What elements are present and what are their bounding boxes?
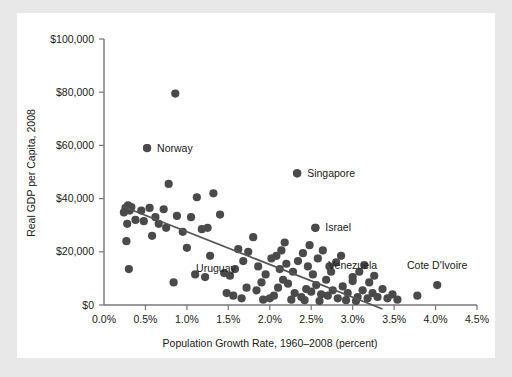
annotation-label: Israel [325,221,351,233]
annotation-label: Cote D'Ivoire [407,259,468,271]
x-tick-label: 4.5% [465,313,489,325]
data-point [171,89,179,97]
data-point [140,217,148,225]
data-point [170,278,178,286]
data-point [145,204,153,212]
y-axis-tick-marks [99,39,104,305]
data-point [305,241,313,249]
data-point [365,278,373,286]
data-point [342,296,350,304]
data-point [349,273,357,281]
annotation-marker [293,169,301,177]
data-point [413,292,421,300]
data-point [339,282,347,290]
data-point [183,244,191,252]
data-point [209,189,217,197]
data-point [120,208,128,216]
x-tick-label: 4.0% [424,313,448,325]
data-point [165,180,173,188]
data-point [237,294,245,302]
data-point [257,278,265,286]
data-point [314,254,322,262]
x-tick-label: 3.5% [382,313,406,325]
x-tick-label: 3.0% [341,313,365,325]
annotation-label: Uruguay [196,262,236,274]
data-point [239,257,247,265]
annotation-label: Venezuela [328,259,377,271]
x-tick-label: 2.0% [258,313,282,325]
data-point [201,273,209,281]
data-point [433,281,441,289]
data-point [378,285,386,293]
data-point [229,292,237,300]
data-point [373,293,381,301]
y-axis-tick-labels: $0$20,000$40,000$60,000$80,000$100,000 [50,33,94,311]
y-tick-label: $40,000 [56,192,94,204]
data-point [281,238,289,246]
data-point [262,270,270,278]
data-point [274,284,282,292]
data-point [284,280,292,288]
data-point [319,246,327,254]
y-tick-label: $100,000 [50,33,94,45]
data-point [125,265,133,273]
data-points [120,89,442,305]
data-point [216,210,224,218]
data-point [122,237,130,245]
data-point [287,296,295,304]
data-point [277,246,285,254]
data-point [148,232,156,240]
data-point [123,220,131,228]
data-point [242,284,250,292]
annotation-marker [311,224,319,232]
data-point [304,262,312,270]
data-point [249,233,257,241]
x-tick-label: 0.0% [92,313,116,325]
y-tick-label: $60,000 [56,139,94,151]
data-point [193,193,201,201]
y-axis-title: Real GDP per Capita, 2008 [25,109,37,237]
data-point [299,249,307,257]
x-axis-tick-marks [145,305,477,310]
data-point [309,270,317,278]
x-tick-label: 1.5% [216,313,240,325]
scatter-plot: $0$20,000$40,000$60,000$80,000$100,000 0… [17,13,495,358]
data-point [254,262,262,270]
annotation-label: Singapore [307,167,355,179]
data-point [173,212,181,220]
data-point [266,294,274,302]
data-point [334,294,342,302]
data-point [204,224,212,232]
x-axis-tick-labels: 0.0%0.5%1.0%1.5%2.0%2.5%3.0%3.5%4.0%4.5% [92,313,489,325]
data-point [294,257,302,265]
y-tick-label: $0 [82,299,94,311]
x-tick-label: 2.5% [299,313,323,325]
data-point [393,296,401,304]
data-point [131,216,139,224]
y-tick-label: $20,000 [56,245,94,257]
data-point [307,288,315,296]
x-tick-label: 0.5% [133,313,157,325]
data-point [282,260,290,268]
annotation-labels: NorwaySingaporeIsraelUruguayVenezuelaCot… [157,142,467,274]
data-point [300,296,308,304]
data-point [160,205,168,213]
data-point [206,252,214,260]
annotation-marker [143,144,151,152]
data-point [359,286,367,294]
x-tick-label: 1.0% [175,313,199,325]
annotation-label: Norway [157,142,193,154]
data-point [322,276,330,284]
chart-canvas: $0$20,000$40,000$60,000$80,000$100,000 0… [17,13,495,358]
data-point [370,272,378,280]
x-axis-title: Population Growth Rate, 1960–2008 (perce… [163,337,378,349]
data-point [187,213,195,221]
figure-frame: $0$20,000$40,000$60,000$80,000$100,000 0… [17,13,495,358]
data-point [315,297,323,305]
y-tick-label: $80,000 [56,86,94,98]
data-point [252,286,260,294]
